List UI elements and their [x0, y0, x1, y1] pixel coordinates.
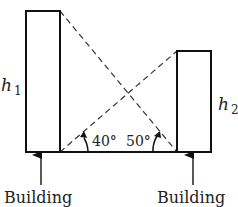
sight-line-left-top-to-right-base	[60, 11, 177, 152]
angle-arc-40	[84, 138, 88, 152]
two-buildings-diagram: 40° 50° h1 h2 Building Building	[0, 0, 238, 207]
angle-arrow-50-icon	[154, 131, 161, 138]
right-building-caption: Building	[157, 188, 225, 207]
angle-arc-50	[153, 136, 157, 152]
height-label-h2: h2	[218, 94, 238, 117]
angle-label-50: 50°	[126, 133, 151, 149]
left-building-caption: Building	[4, 188, 72, 207]
angle-arrow-40-icon	[80, 131, 87, 138]
left-building	[26, 11, 60, 152]
height-label-h1: h1	[1, 75, 22, 98]
right-building	[177, 51, 211, 152]
angle-label-40: 40°	[92, 133, 117, 149]
